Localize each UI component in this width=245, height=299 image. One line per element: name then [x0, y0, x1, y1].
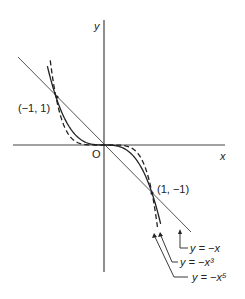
arrowhead-neg-x-cubed [158, 232, 163, 237]
x-axis-label: x [219, 150, 226, 162]
point-1-neg1 [150, 191, 153, 194]
graph-canvas: y x O (−1, 1) (1, −1) y = −x y = −x³ y =… [0, 0, 245, 299]
y-axis-label: y [93, 20, 101, 32]
point-label-1-neg1: (1, −1) [157, 183, 189, 195]
leader-neg-x [180, 233, 188, 248]
legend-label-neg-x: y = −x [189, 242, 220, 254]
legend-label-neg-x-cubed: y = −x³ [179, 256, 214, 268]
point-label-neg1-1: (−1, 1) [18, 102, 50, 114]
arrowhead-neg-x [178, 229, 182, 234]
arrowhead-neg-x-fifth [152, 233, 157, 238]
leader-neg-x-cubed [161, 236, 178, 262]
origin-label: O [92, 148, 101, 160]
point-neg1-1 [55, 95, 58, 98]
legend-label-neg-x-fifth: y = −x⁵ [191, 271, 227, 283]
